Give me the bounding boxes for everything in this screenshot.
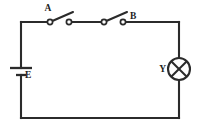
wire-network — [21, 22, 179, 118]
switch-a-label: A — [45, 3, 52, 13]
switch-a-contact-terminal[interactable] — [66, 19, 71, 24]
battery-label: E — [25, 70, 31, 80]
circuit-schematic-canvas: E A B Y — [0, 0, 199, 132]
switch-b[interactable] — [101, 12, 127, 25]
lamp-label: Y — [159, 64, 166, 74]
switch-b-pivot-terminal[interactable] — [101, 19, 106, 24]
lamp-symbol — [168, 58, 190, 80]
switch-b-label: B — [130, 11, 137, 21]
switch-a-pivot-terminal[interactable] — [47, 19, 52, 24]
switch-b-contact-terminal[interactable] — [120, 19, 125, 24]
circuit-diagram: E A B Y — [0, 0, 199, 132]
switch-a[interactable] — [47, 12, 73, 25]
